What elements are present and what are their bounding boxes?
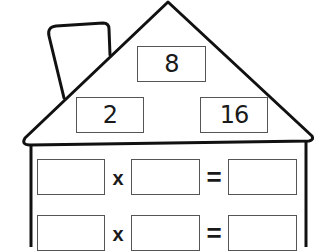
- equation-2-result-box[interactable]: [228, 215, 297, 251]
- roof-left-number: 2: [103, 103, 117, 127]
- roof-top-number: 8: [164, 52, 178, 76]
- equation-2-factor1-box[interactable]: [37, 215, 105, 251]
- equation-1-equals-sign: =: [204, 164, 224, 190]
- roof-right-number: 16: [220, 103, 249, 127]
- equation-2-times-sign: x: [110, 224, 126, 244]
- roof-top-number-box: 8: [137, 46, 206, 82]
- equation-2-factor2-box[interactable]: [131, 215, 200, 251]
- roof-left-number-box: 2: [76, 97, 144, 133]
- equation-1-times-sign: x: [110, 168, 126, 188]
- roof-right-number-box: 16: [200, 97, 268, 133]
- equation-1-factor2-box[interactable]: [131, 159, 200, 195]
- equation-2-equals-sign: =: [204, 220, 224, 246]
- equation-1-factor1-box[interactable]: [37, 159, 105, 195]
- equation-1-result-box[interactable]: [228, 159, 297, 195]
